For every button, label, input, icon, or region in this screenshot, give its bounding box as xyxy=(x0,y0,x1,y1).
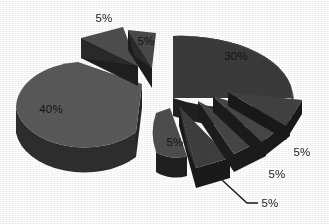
slice-label-5: 5% xyxy=(293,146,310,158)
slice-label-7: 5% xyxy=(261,197,278,209)
slice-label-6: 5% xyxy=(268,168,285,180)
pie-chart-svg: 5% 5% 30% 40% 5% 5% 5% 5% xyxy=(0,0,329,224)
slice-label-0: 5% xyxy=(95,12,112,24)
pie-slice-30-top xyxy=(173,36,293,98)
slice-label-2: 30% xyxy=(224,50,248,62)
pie-chart: 5% 5% 30% 40% 5% 5% 5% 5% xyxy=(0,0,329,224)
slice-label-1: 5% xyxy=(137,35,154,47)
leader-line xyxy=(222,180,258,203)
slice-label-4: 5% xyxy=(166,136,183,148)
slice-label-3: 40% xyxy=(39,103,63,115)
